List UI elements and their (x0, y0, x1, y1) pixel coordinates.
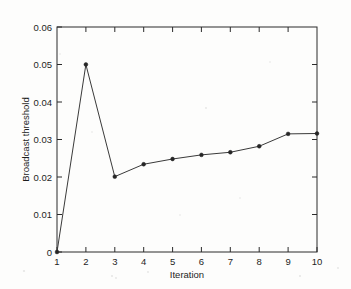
y-tick-label: 0.02 (34, 172, 53, 183)
data-point (142, 162, 146, 166)
x-tick-label: 5 (170, 256, 175, 267)
x-tick-label: 1 (54, 256, 59, 267)
y-tick-label: 0.03 (34, 134, 53, 145)
data-point (286, 132, 290, 136)
data-point (84, 63, 88, 67)
axes-frame (57, 27, 317, 252)
y-tick-label: 0.01 (34, 209, 53, 220)
x-axis-title: Iteration (170, 269, 204, 280)
x-axis: 1 2 3 4 5 6 7 8 9 10 (54, 27, 322, 267)
x-tick-label: 9 (285, 256, 290, 267)
x-tick-label: 8 (257, 256, 262, 267)
data-line (57, 65, 317, 253)
x-tick-label: 2 (83, 256, 88, 267)
x-tick-label: 10 (312, 256, 323, 267)
y-axis-title: Broadcast threshold (20, 97, 31, 182)
data-point (200, 153, 204, 157)
x-tick-label: 3 (112, 256, 117, 267)
data-point (113, 175, 117, 179)
data-point (257, 144, 261, 148)
x-tick-label: 6 (199, 256, 204, 267)
data-series-broadcast-threshold (55, 63, 319, 254)
y-tick-group (57, 27, 317, 252)
data-point (315, 132, 319, 136)
line-chart: 0 0.01 0.02 0.03 0.04 0.05 0.06 (0, 0, 351, 289)
x-tick-label: 7 (228, 256, 233, 267)
y-tick-label: 0 (47, 247, 52, 258)
data-point (228, 150, 232, 154)
data-markers (55, 63, 319, 254)
figure-canvas: 0 0.01 0.02 0.03 0.04 0.05 0.06 (0, 0, 351, 289)
data-point (55, 250, 59, 254)
x-tick-group (57, 27, 317, 252)
y-tick-label: 0.04 (34, 97, 53, 108)
x-tick-label: 4 (141, 256, 146, 267)
y-tick-label: 0.05 (34, 59, 53, 70)
data-point (171, 157, 175, 161)
y-tick-label: 0.06 (34, 22, 53, 33)
